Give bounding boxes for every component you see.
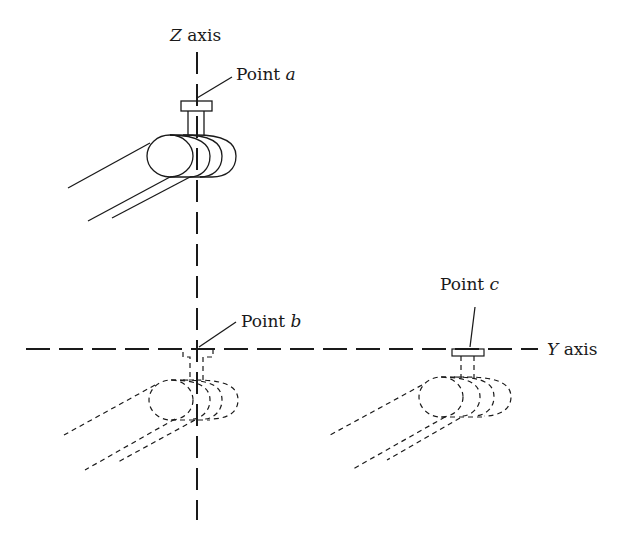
leader-point-c [470,307,475,347]
tool-point-b [64,349,238,470]
z-axis-label: Z axis [169,25,221,45]
tool-path-diagram: Z axis Y axis Point a Point [0,0,633,541]
y-axis-label: Y axis [547,339,598,359]
point-a-label: Point a [236,64,296,84]
tool-point-c [330,349,511,469]
leader-point-a [197,77,232,98]
tool-point-a [68,101,236,221]
leader-point-b [199,322,236,347]
point-b-label: Point b [241,311,302,331]
point-c-label: Point c [440,274,500,294]
